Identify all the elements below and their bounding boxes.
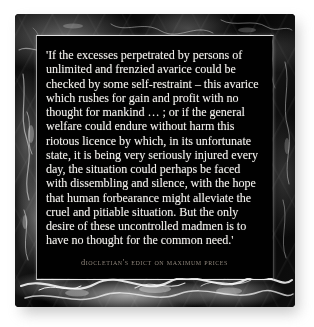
quote-attribution: Diocletian's Edict on Maximum Prices xyxy=(37,258,272,267)
marble-plaque: 'If the excesses perpetrated by persons … xyxy=(15,14,295,307)
plaque-scene: 'If the excesses perpetrated by persons … xyxy=(0,0,314,327)
quote-panel: 'If the excesses perpetrated by persons … xyxy=(37,36,272,278)
quote-text: 'If the excesses perpetrated by persons … xyxy=(46,48,263,248)
